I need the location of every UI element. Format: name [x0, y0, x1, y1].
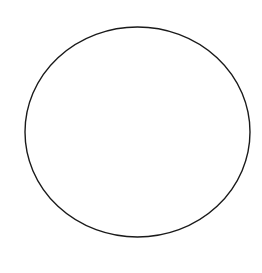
ellipse-shape: [25, 27, 250, 237]
drawing-canvas: [0, 0, 262, 273]
